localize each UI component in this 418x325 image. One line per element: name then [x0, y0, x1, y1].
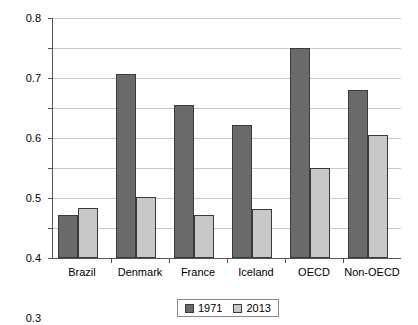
- bar-chart: kgCO2 per $ 2005 00.10.20.30.40.50.60.70…: [0, 0, 418, 325]
- bar-group: [111, 18, 169, 258]
- x-tick-mark: [285, 258, 286, 263]
- x-label-brazil: Brazil: [68, 266, 96, 278]
- bar-iceland-1971: [232, 125, 252, 259]
- y-tick-label: 0.8: [26, 12, 41, 24]
- bar-oecd-2013: [310, 168, 330, 258]
- y-tick-mark: 0: [48, 258, 53, 259]
- legend-label-2013: 2013: [246, 302, 270, 314]
- bar-group: [53, 18, 111, 258]
- plot-area: 00.10.20.30.40.50.60.70.8 BrazilDenmarkF…: [52, 18, 401, 259]
- y-tick-label: 0.4: [26, 252, 41, 264]
- y-tick-label: 0.5: [26, 192, 41, 204]
- x-label-france: France: [181, 266, 215, 278]
- bar-group: [285, 18, 343, 258]
- x-label-iceland: Iceland: [238, 266, 273, 278]
- bar-denmark-2013: [136, 197, 156, 259]
- x-label-denmark: Denmark: [118, 266, 163, 278]
- x-label-oecd: OECD: [298, 266, 330, 278]
- x-label-non-oecd: Non-OECD: [344, 266, 400, 278]
- bar-france-2013: [194, 215, 214, 259]
- bar-iceland-2013: [252, 209, 272, 259]
- bar-brazil-1971: [58, 215, 78, 259]
- bar-oecd-1971: [290, 48, 310, 258]
- x-tick-mark: [343, 258, 344, 263]
- x-tick-mark: [169, 258, 170, 263]
- bars-layer: [53, 18, 401, 258]
- bar-denmark-1971: [116, 74, 136, 259]
- y-tick-label: 0.3: [26, 312, 41, 324]
- bar-non-oecd-2013: [368, 135, 388, 258]
- bar-group: [343, 18, 401, 258]
- legend-label-1971: 1971: [198, 302, 222, 314]
- legend-item-2013: 2013: [233, 302, 270, 314]
- legend-item-1971: 1971: [185, 302, 222, 314]
- x-tick-mark: [227, 258, 228, 263]
- y-tick-label: 0.7: [26, 72, 41, 84]
- x-tick-mark: [111, 258, 112, 263]
- bar-brazil-2013: [78, 208, 98, 258]
- legend-swatch-1971: [185, 304, 194, 313]
- bar-france-1971: [174, 105, 194, 258]
- legend-swatch-2013: [233, 304, 242, 313]
- legend: 1971 2013: [177, 299, 279, 317]
- bar-group: [169, 18, 227, 258]
- bar-group: [227, 18, 285, 258]
- bar-non-oecd-1971: [348, 90, 368, 258]
- y-tick-label: 0.6: [26, 132, 41, 144]
